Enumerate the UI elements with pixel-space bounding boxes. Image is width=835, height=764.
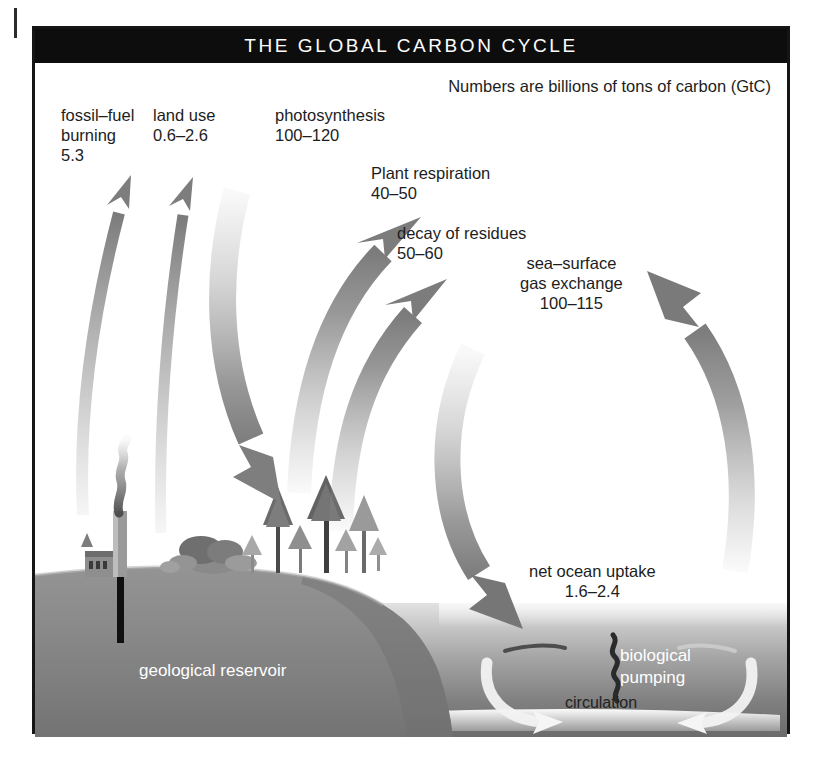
arrow-net-ocean-uptake xyxy=(447,349,523,629)
label-geological-reservoir: geological reservoir xyxy=(139,661,286,681)
label-land-use: land use 0.6–2.6 xyxy=(153,105,215,145)
arrow-sea-surface-gas-exchange xyxy=(647,271,742,571)
arrow-decay-of-residues xyxy=(341,279,447,531)
label-biological-pumping: biological pumping xyxy=(620,645,691,689)
label-net-ocean-uptake: net ocean uptake 1.6–2.4 xyxy=(529,561,656,601)
diagram-canvas: Numbers are billions of tons of carbon (… xyxy=(35,63,787,737)
arrow-photosynthesis xyxy=(223,191,281,503)
label-sea-surface-gas-exchange: sea–surface gas exchange 100–115 xyxy=(520,253,623,313)
label-decay-of-residues: decay of residues 50–60 xyxy=(397,223,526,263)
arrow-land-use xyxy=(161,177,193,533)
figure-title-bar: THE GLOBAL CARBON CYCLE xyxy=(35,29,787,63)
arrow-fossil-fuel-burning xyxy=(82,175,131,515)
label-photosynthesis: photosynthesis 100–120 xyxy=(275,105,385,145)
label-fossil-fuel-burning: fossil–fuel burning 5.3 xyxy=(61,105,134,165)
figure-frame: THE GLOBAL CARBON CYCLE xyxy=(32,26,790,734)
label-circulation: circulation xyxy=(565,693,637,713)
page-edge-tick xyxy=(14,8,17,38)
label-plant-respiration: Plant respiration 40–50 xyxy=(371,163,490,203)
page-title: THE GLOBAL CARBON CYCLE xyxy=(244,35,578,57)
units-note: Numbers are billions of tons of carbon (… xyxy=(448,77,771,96)
